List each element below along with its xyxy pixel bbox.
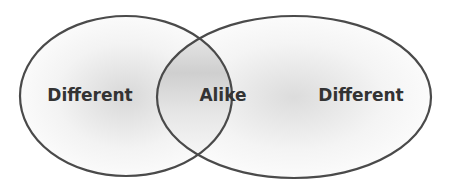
left-set-label: Different xyxy=(47,85,132,105)
venn-diagram: Different Alike Different xyxy=(0,0,455,192)
right-set-label: Different xyxy=(318,85,403,105)
overlap-label: Alike xyxy=(199,85,246,105)
